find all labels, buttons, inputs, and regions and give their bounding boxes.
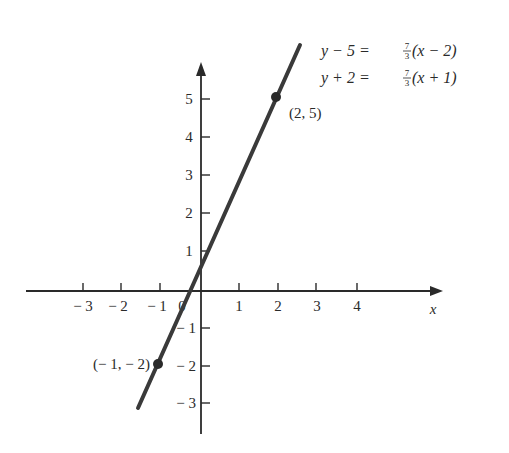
x-tick-label: 3 [313,298,321,314]
fraction-numerator: 7 [405,41,410,51]
y-tick-label: − 2 [176,358,196,374]
line-graph-figure: − 3 − 2 − 1 0 1 2 3 4 x 1 2 3 [0,0,509,453]
x-tick-label: − 2 [108,298,128,314]
fraction-numerator: 7 [405,68,410,78]
x-tick-label: 1 [235,298,243,314]
y-tick-label: 1 [185,243,193,259]
y-axis-arrow-icon [196,62,206,76]
y-tick-label: 4 [185,129,193,145]
x-tick-label: 2 [274,298,282,314]
equation-rhs: (x − 2) [412,42,457,60]
y-tick-label: 3 [185,167,193,183]
y-tick-label: 2 [185,205,193,221]
y-axis: 1 2 3 4 5 − 1 − 2 − 3 [176,62,210,434]
x-axis-label: x [429,301,437,317]
point-label: (− 1, − 2) [93,356,150,373]
point-marker-icon [153,359,163,369]
y-tick-label: − 3 [176,395,196,411]
equation-rhs: (x + 1) [412,69,457,87]
point-marker-icon [271,92,281,102]
fraction-denominator: 3 [405,78,410,88]
x-axis: − 3 − 2 − 1 0 1 2 3 4 x [26,283,443,317]
point-2-5: (2, 5) [271,92,322,122]
x-tick-label: − 1 [147,298,167,314]
y-tick-label: 5 [185,91,193,107]
y-tick-label: − 1 [176,320,196,336]
x-tick-label: 4 [353,298,361,314]
equation-2: y + 2 = 7 3 (x + 1) [319,68,457,88]
point-neg1-neg2: (− 1, − 2) [93,356,163,373]
x-tick-label: − 3 [73,298,93,314]
point-label: (2, 5) [289,105,322,122]
equation-1: y − 5 = 7 3 (x − 2) [319,41,457,61]
fraction-denominator: 3 [405,51,410,61]
equation-lhs: y − 5 = [319,42,370,60]
equation-lhs: y + 2 = [319,69,370,87]
x-axis-arrow-icon [430,286,443,296]
